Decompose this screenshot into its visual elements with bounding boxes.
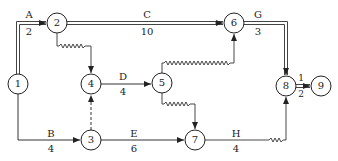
activity-e-name: E	[130, 129, 137, 139]
activity-i-name: 1	[298, 73, 304, 83]
node-8-label: 8	[276, 76, 296, 96]
float-2-4-wavy	[57, 33, 91, 73]
activity-b-duration: 4	[48, 144, 54, 154]
node-2-label: 2	[47, 13, 67, 33]
activity-c-arrow	[67, 22, 223, 25]
node-4-label: 4	[81, 74, 101, 94]
activity-g-arrow	[244, 22, 288, 76]
activity-h-arrow	[205, 97, 286, 142]
node-5-label: 5	[152, 73, 172, 93]
activity-b-name: B	[47, 129, 54, 139]
node-1-label: 1	[8, 74, 28, 94]
activity-g-name: G	[254, 10, 262, 20]
activity-c-duration: 10	[141, 27, 154, 37]
activity-a-duration: 2	[26, 27, 32, 37]
activity-e-duration: 6	[131, 144, 137, 154]
float-5-6-wavy	[162, 34, 234, 73]
activity-d-name: D	[119, 72, 127, 82]
activity-h-name: H	[232, 129, 241, 139]
node-6-label: 6	[224, 13, 244, 33]
float-5-7-wavy	[162, 93, 195, 129]
activity-d-duration: 4	[120, 87, 126, 97]
activity-i-duration: 2	[298, 89, 304, 99]
node-7-label: 7	[185, 130, 205, 150]
activity-a-name: A	[25, 10, 32, 20]
activity-h-duration: 4	[233, 144, 239, 154]
activity-i-arrow	[296, 85, 310, 88]
node-3-label: 3	[81, 130, 101, 150]
activity-g-duration: 3	[255, 27, 261, 37]
node-9-label: 9	[311, 76, 331, 96]
activity-c-name: C	[143, 10, 151, 20]
network-diagram: 1 2 3 4 5 6 7 8 9 A 2 C 10 G 3 1 2 B 4 D…	[0, 0, 338, 161]
